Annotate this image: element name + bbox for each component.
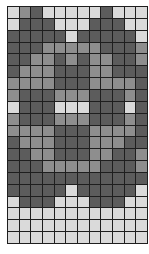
grid-cell[interactable] [8,208,19,219]
grid-cell[interactable] [136,185,147,196]
grid-cell[interactable] [136,137,147,148]
grid-cell[interactable] [136,197,147,208]
grid-cell[interactable] [136,78,147,89]
grid-cell[interactable] [90,43,101,54]
grid-cell[interactable] [8,31,19,42]
grid-cell[interactable] [31,220,42,231]
grid-cell[interactable] [78,114,89,125]
grid-cell[interactable] [31,114,42,125]
grid-cell[interactable] [66,185,77,196]
grid-cell[interactable] [66,208,77,219]
grid-cell[interactable] [43,7,54,18]
grid-cell[interactable] [90,161,101,172]
grid-cell[interactable] [8,78,19,89]
grid-cell[interactable] [136,161,147,172]
grid-cell[interactable] [136,54,147,65]
grid-cell[interactable] [55,161,66,172]
grid-cell[interactable] [31,66,42,77]
grid-cell[interactable] [136,90,147,101]
grid-cell[interactable] [8,197,19,208]
grid-cell[interactable] [101,161,112,172]
grid-cell[interactable] [78,232,89,243]
grid-cell[interactable] [43,220,54,231]
grid-cell[interactable] [136,114,147,125]
grid-cell[interactable] [136,31,147,42]
grid-cell[interactable] [43,31,54,42]
grid-cell[interactable] [113,208,124,219]
grid-cell[interactable] [66,232,77,243]
grid-cell[interactable] [125,126,136,137]
grid-cell[interactable] [20,31,31,42]
grid-cell[interactable] [101,232,112,243]
grid-cell[interactable] [113,43,124,54]
grid-cell[interactable] [101,149,112,160]
grid-cell[interactable] [43,66,54,77]
grid-cell[interactable] [66,54,77,65]
grid-cell[interactable] [31,161,42,172]
grid-cell[interactable] [8,54,19,65]
grid-cell[interactable] [125,90,136,101]
grid-cell[interactable] [90,173,101,184]
grid-cell[interactable] [31,19,42,30]
grid-cell[interactable] [66,126,77,137]
grid-cell[interactable] [78,7,89,18]
grid-cell[interactable] [78,220,89,231]
grid-cell[interactable] [8,19,19,30]
grid-cell[interactable] [55,220,66,231]
grid-cell[interactable] [78,31,89,42]
grid-cell[interactable] [78,126,89,137]
grid-cell[interactable] [20,220,31,231]
grid-cell[interactable] [55,102,66,113]
grid-cell[interactable] [20,78,31,89]
grid-cell[interactable] [78,78,89,89]
grid-cell[interactable] [90,220,101,231]
grid-cell[interactable] [78,161,89,172]
grid-cell[interactable] [113,7,124,18]
grid-cell[interactable] [125,31,136,42]
grid-cell[interactable] [20,185,31,196]
grid-cell[interactable] [20,7,31,18]
grid-cell[interactable] [66,102,77,113]
grid-cell[interactable] [125,232,136,243]
grid-cell[interactable] [125,173,136,184]
grid-cell[interactable] [43,232,54,243]
grid-cell[interactable] [113,185,124,196]
grid-cell[interactable] [90,78,101,89]
grid-cell[interactable] [55,137,66,148]
grid-cell[interactable] [66,114,77,125]
grid-cell[interactable] [78,137,89,148]
grid-cell[interactable] [78,90,89,101]
grid-cell[interactable] [55,78,66,89]
grid-cell[interactable] [8,126,19,137]
grid-cell[interactable] [90,7,101,18]
grid-cell[interactable] [20,197,31,208]
grid-cell[interactable] [101,90,112,101]
grid-cell[interactable] [125,78,136,89]
grid-cell[interactable] [8,43,19,54]
grid-cell[interactable] [136,149,147,160]
grid-cell[interactable] [31,7,42,18]
grid-cell[interactable] [101,7,112,18]
grid-cell[interactable] [55,66,66,77]
grid-cell[interactable] [136,232,147,243]
grid-cell[interactable] [90,232,101,243]
grid-cell[interactable] [78,54,89,65]
grid-cell[interactable] [66,43,77,54]
grid-cell[interactable] [66,66,77,77]
grid-cell[interactable] [78,43,89,54]
grid-cell[interactable] [55,149,66,160]
grid-cell[interactable] [90,208,101,219]
grid-cell[interactable] [113,161,124,172]
grid-cell[interactable] [113,78,124,89]
grid-cell[interactable] [55,43,66,54]
grid-cell[interactable] [20,137,31,148]
grid-cell[interactable] [125,185,136,196]
grid-cell[interactable] [8,90,19,101]
grid-cell[interactable] [101,185,112,196]
grid-cell[interactable] [31,173,42,184]
grid-cell[interactable] [78,185,89,196]
grid-cell[interactable] [20,173,31,184]
grid-cell[interactable] [78,208,89,219]
grid-cell[interactable] [20,66,31,77]
grid-cell[interactable] [31,54,42,65]
